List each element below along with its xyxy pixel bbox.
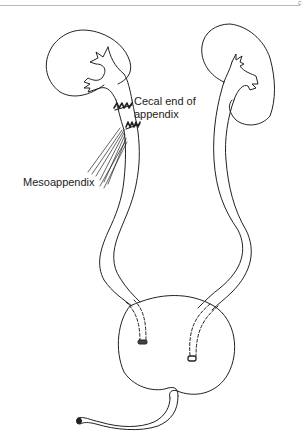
cecal-end-label-line2: appendix (134, 108, 196, 121)
mesoappendix-label: Mesoappendix (23, 176, 95, 189)
left-ureter (198, 82, 251, 310)
anatomy-diagram (0, 0, 304, 443)
appendix-graft (100, 100, 140, 306)
cecal-end-label-line1: Cecal end of (134, 95, 196, 108)
bladder (77, 296, 235, 430)
cecal-end-label: Cecal end of appendix (134, 95, 196, 121)
left-kidney (202, 24, 275, 125)
right-kidney (46, 30, 132, 100)
